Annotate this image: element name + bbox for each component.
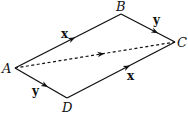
vector-label-ab: x bbox=[61, 27, 69, 41]
vector-label-dc: x bbox=[127, 69, 135, 83]
edge-a-b bbox=[15, 14, 121, 68]
parallelogram-diagram: A B C D x y y x bbox=[0, 0, 188, 114]
point-label-d: D bbox=[61, 100, 73, 114]
point-label-b: B bbox=[115, 0, 126, 14]
edge-b-c bbox=[121, 14, 175, 42]
edge-a-d bbox=[15, 68, 67, 98]
vector-label-ad: y bbox=[31, 84, 40, 98]
point-label-a: A bbox=[1, 61, 11, 76]
point-label-c: C bbox=[177, 35, 187, 50]
vector-label-bc: y bbox=[152, 13, 161, 27]
